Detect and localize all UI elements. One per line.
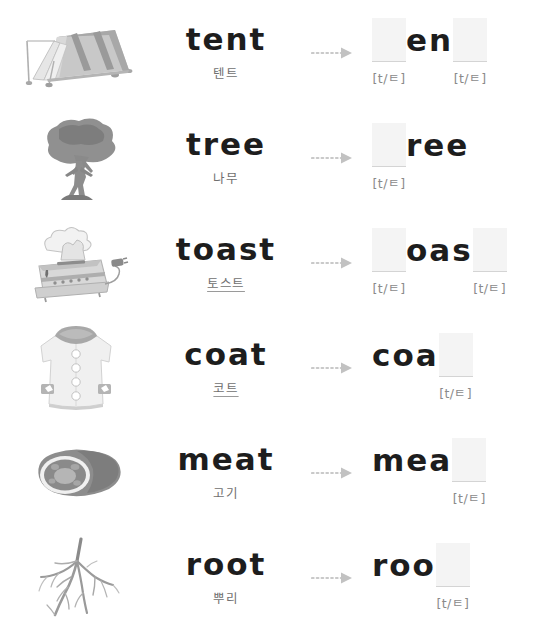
arrow-cell-meat [300, 466, 366, 480]
letters-slot-tent-1: en [406, 18, 453, 87]
blank-slot-meat-1[interactable]: [t/ㅌ] [452, 438, 486, 507]
worksheet-rows: tent텐트[t/ㅌ]en[t/ㅌ] tree나무[t/ㅌ]ree [0, 0, 543, 630]
worksheet-row-tent: tent텐트[t/ㅌ]en[t/ㅌ] [0, 0, 543, 105]
dotted-arrow-right-icon [311, 361, 355, 375]
dotted-arrow-right-icon [311, 571, 355, 585]
letters-slot-root-0: roo [372, 543, 436, 612]
phonetic-hint-root-1: [t/ㅌ] [436, 598, 469, 612]
target-word-coat: coat [184, 339, 267, 370]
root-illustration [21, 535, 131, 621]
word-cell-coat: coat코트 [152, 339, 300, 396]
visible-letters-root-0: roo [372, 543, 436, 587]
answer-cell-meat: mea[t/ㅌ] [366, 438, 543, 507]
korean-gloss-tree: 나무 [213, 173, 238, 186]
visible-letters-toast-1: oas [406, 228, 473, 272]
dotted-arrow-right-icon [311, 46, 355, 60]
target-word-tree: tree [186, 129, 266, 160]
blank-slot-tree-0[interactable]: [t/ㅌ] [372, 123, 406, 192]
korean-gloss-tent: 텐트 [213, 68, 238, 81]
letters-slot-meat-0: mea [372, 438, 452, 507]
letters-slot-coat-0: coa [372, 333, 439, 402]
blank-slot-coat-1[interactable]: [t/ㅌ] [439, 333, 473, 402]
arrow-cell-tree [300, 151, 366, 165]
word-cell-root: root뿌리 [152, 549, 300, 606]
korean-gloss-meat: 고기 [213, 488, 238, 501]
tree-illustration [19, 115, 134, 201]
letters-slot-tree-1: ree [406, 123, 469, 192]
worksheet-row-tree: tree나무[t/ㅌ]ree [0, 105, 543, 210]
phonetic-hint-tent-2: [t/ㅌ] [454, 73, 487, 87]
vocabulary-worksheet: tent텐트[t/ㅌ]en[t/ㅌ] tree나무[t/ㅌ]ree [0, 0, 543, 630]
word-cell-tree: tree나무 [152, 129, 300, 186]
arrow-cell-root [300, 571, 366, 585]
word-cell-meat: meat고기 [152, 444, 300, 501]
blank-input-coat-1[interactable] [439, 333, 473, 377]
phonetic-hint-meat-1: [t/ㅌ] [453, 493, 486, 507]
worksheet-row-meat: meat고기mea[t/ㅌ] [0, 420, 543, 525]
illustration-cell-meat [0, 437, 152, 509]
blank-input-tent-0[interactable] [372, 18, 406, 62]
word-cell-toast: toast토스트 [152, 234, 300, 291]
blank-input-tent-2[interactable] [453, 18, 487, 62]
phonetic-hint-tree-0: [t/ㅌ] [373, 178, 406, 192]
answer-cell-tree: [t/ㅌ]ree [366, 123, 543, 192]
blank-input-tree-0[interactable] [372, 123, 406, 167]
visible-letters-meat-0: mea [372, 438, 452, 482]
worksheet-row-coat: coat코트coa[t/ㅌ] [0, 315, 543, 420]
dotted-arrow-right-icon [311, 256, 355, 270]
tent-illustration [11, 13, 141, 93]
answer-cell-root: roo[t/ㅌ] [366, 543, 543, 612]
meat-illustration [21, 437, 131, 509]
blank-input-toast-2[interactable] [473, 228, 507, 272]
dotted-arrow-right-icon [311, 466, 355, 480]
illustration-cell-tent [0, 13, 152, 93]
phonetic-hint-tent-0: [t/ㅌ] [373, 73, 406, 87]
target-word-meat: meat [177, 444, 274, 475]
letters-slot-toast-1: oas [406, 228, 473, 297]
target-word-tent: tent [186, 24, 267, 55]
coat-illustration [25, 322, 127, 414]
arrow-cell-toast [300, 256, 366, 270]
arrow-cell-tent [300, 46, 366, 60]
answer-cell-tent: [t/ㅌ]en[t/ㅌ] [366, 18, 543, 87]
korean-gloss-coat: 코트 [213, 383, 238, 396]
worksheet-row-root: root뿌리roo[t/ㅌ] [0, 525, 543, 630]
visible-letters-tree-1: ree [406, 123, 469, 167]
answer-cell-toast: [t/ㅌ]oas[t/ㅌ] [366, 228, 543, 297]
korean-gloss-root: 뿌리 [213, 593, 238, 606]
dotted-arrow-right-icon [311, 151, 355, 165]
arrow-cell-coat [300, 361, 366, 375]
blank-input-meat-1[interactable] [452, 438, 486, 482]
visible-letters-tent-1: en [406, 18, 453, 62]
target-word-toast: toast [176, 234, 276, 265]
illustration-cell-tree [0, 115, 152, 201]
toaster-illustration [13, 222, 139, 304]
blank-slot-root-1[interactable]: [t/ㅌ] [436, 543, 470, 612]
worksheet-row-toast: toast토스트[t/ㅌ]oas[t/ㅌ] [0, 210, 543, 315]
phonetic-hint-coat-1: [t/ㅌ] [439, 388, 472, 402]
illustration-cell-toast [0, 222, 152, 304]
illustration-cell-root [0, 535, 152, 621]
blank-input-root-1[interactable] [436, 543, 470, 587]
word-cell-tent: tent텐트 [152, 24, 300, 81]
phonetic-hint-toast-2: [t/ㅌ] [473, 283, 506, 297]
visible-letters-coat-0: coa [372, 333, 439, 377]
blank-slot-tent-0[interactable]: [t/ㅌ] [372, 18, 406, 87]
phonetic-hint-toast-0: [t/ㅌ] [373, 283, 406, 297]
korean-gloss-toast: 토스트 [207, 278, 245, 291]
answer-cell-coat: coa[t/ㅌ] [366, 333, 543, 402]
illustration-cell-coat [0, 322, 152, 414]
blank-slot-tent-2[interactable]: [t/ㅌ] [453, 18, 487, 87]
blank-input-toast-0[interactable] [372, 228, 406, 272]
blank-slot-toast-0[interactable]: [t/ㅌ] [372, 228, 406, 297]
blank-slot-toast-2[interactable]: [t/ㅌ] [473, 228, 507, 297]
target-word-root: root [186, 549, 267, 580]
